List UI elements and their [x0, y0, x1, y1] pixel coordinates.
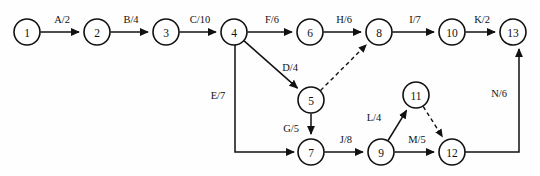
node-13[interactable]: 13: [500, 19, 526, 45]
node-label-13: 13: [507, 27, 519, 39]
node-3[interactable]: 3: [153, 19, 179, 45]
node-4[interactable]: 4: [221, 19, 247, 45]
edge-label-4-7: E/7: [211, 90, 226, 101]
edge-label-12-13: N/6: [491, 88, 507, 99]
node-12[interactable]: 12: [439, 139, 465, 165]
node-label-5: 5: [308, 95, 314, 107]
node-1[interactable]: 1: [14, 19, 40, 45]
node-label-7: 7: [308, 147, 314, 159]
edge-5-to-8: [321, 45, 367, 91]
diagram-canvas: A/2B/4C/10F/6H/6I/7K/2D/4E/7G/5J/8L/4M/5…: [0, 0, 540, 176]
node-label-11: 11: [410, 90, 421, 102]
network-diagram-svg: A/2B/4C/10F/6H/6I/7K/2D/4E/7G/5J/8L/4M/5…: [0, 0, 540, 176]
edge-label-1-2: A/2: [54, 14, 70, 25]
edge-label-6-8: H/6: [336, 14, 352, 25]
node-label-10: 10: [446, 27, 458, 39]
edge-label-9-11: L/4: [367, 112, 382, 123]
node-label-8: 8: [376, 27, 382, 39]
node-2[interactable]: 2: [84, 19, 110, 45]
nodes-layer: 12346810135117912: [14, 19, 526, 165]
node-10[interactable]: 10: [439, 19, 465, 45]
edge-label-5-7: G/5: [283, 123, 299, 134]
edge-label-4-5: D/4: [282, 62, 299, 73]
node-label-9: 9: [378, 147, 384, 159]
edge-label-8-10: I/7: [409, 14, 421, 25]
node-label-4: 4: [231, 27, 237, 39]
edge-label-3-4: C/10: [190, 14, 210, 25]
node-8[interactable]: 8: [366, 19, 392, 45]
node-6[interactable]: 6: [297, 19, 323, 45]
edge-label-10-13: K/2: [474, 14, 490, 25]
edge-label-9-12: M/5: [408, 134, 426, 145]
node-label-6: 6: [307, 27, 313, 39]
edge-12-to-13: [465, 49, 519, 152]
edge-label-7-9: J/8: [340, 134, 352, 145]
node-7[interactable]: 7: [298, 139, 324, 165]
node-label-12: 12: [446, 147, 458, 159]
node-11[interactable]: 11: [403, 82, 429, 108]
edges-layer: [41, 32, 520, 152]
node-5[interactable]: 5: [298, 87, 324, 113]
edge-label-2-3: B/4: [123, 14, 139, 25]
edge-11-to-12: [423, 106, 442, 136]
node-label-3: 3: [163, 27, 169, 39]
node-label-2: 2: [94, 27, 100, 39]
node-label-1: 1: [24, 27, 30, 39]
node-9[interactable]: 9: [368, 139, 394, 165]
edge-label-4-6: F/6: [265, 14, 279, 25]
edge-9-to-11: [388, 110, 407, 140]
